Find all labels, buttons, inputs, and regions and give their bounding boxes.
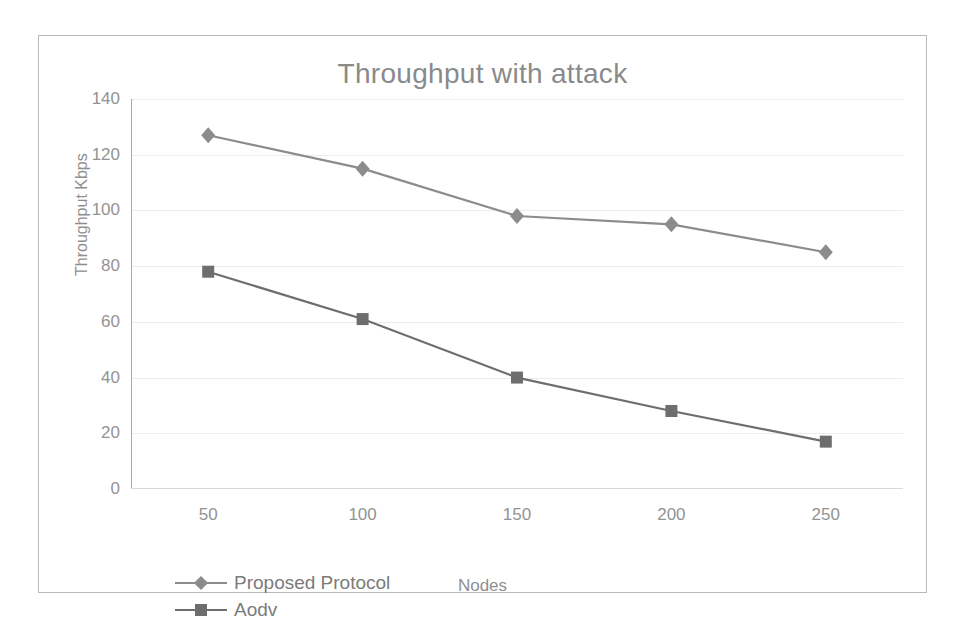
x-axis-title: Nodes bbox=[39, 576, 926, 596]
y-axis-tick-label: 60 bbox=[101, 312, 120, 332]
series-line bbox=[208, 135, 826, 252]
series-plot bbox=[131, 99, 903, 489]
chart-legend: Proposed ProtocolAodv bbox=[175, 569, 390, 623]
x-axis-tick-label: 100 bbox=[348, 505, 376, 525]
marker-square bbox=[511, 372, 523, 384]
legend-item[interactable]: Proposed Protocol bbox=[175, 569, 390, 596]
y-axis-tick-label: 0 bbox=[111, 479, 120, 499]
marker-diamond bbox=[356, 161, 370, 177]
x-axis-tick-label: 250 bbox=[812, 505, 840, 525]
marker-square bbox=[820, 436, 832, 448]
y-axis-tick-label: 80 bbox=[101, 256, 120, 276]
legend-label: Aodv bbox=[234, 599, 277, 621]
marker-diamond bbox=[201, 127, 215, 143]
y-axis-title: Throughput Kbps bbox=[73, 153, 91, 276]
x-axis-tick-label: 200 bbox=[657, 505, 685, 525]
y-axis-tick-label: 140 bbox=[92, 89, 120, 109]
x-axis-tick-label: 150 bbox=[503, 505, 531, 525]
x-axis-tick-label: 50 bbox=[199, 505, 218, 525]
series-aodv bbox=[202, 266, 832, 448]
y-axis-tick-label: 40 bbox=[101, 368, 120, 388]
y-axis-tick-label: 120 bbox=[92, 145, 120, 165]
legend-marker-diamond-icon bbox=[175, 575, 227, 591]
marker-diamond bbox=[819, 244, 833, 260]
marker-square bbox=[202, 266, 214, 278]
marker-square bbox=[357, 313, 369, 325]
y-axis-tick-label: 20 bbox=[101, 423, 120, 443]
marker-square bbox=[665, 405, 677, 417]
legend-marker-square-icon bbox=[175, 602, 227, 618]
legend-label: Proposed Protocol bbox=[234, 572, 390, 594]
y-axis-tick-label: 100 bbox=[92, 200, 120, 220]
legend-item[interactable]: Aodv bbox=[175, 596, 390, 623]
series-line bbox=[208, 272, 826, 442]
series-proposed-protocol bbox=[201, 127, 833, 260]
marker-diamond bbox=[510, 208, 524, 224]
chart-frame: Throughput with attack Throughput Kbps N… bbox=[38, 35, 927, 593]
plot-area: 020406080100120140 50100150200250 bbox=[131, 99, 903, 489]
marker-diamond bbox=[664, 216, 678, 232]
chart-title: Throughput with attack bbox=[39, 58, 926, 90]
